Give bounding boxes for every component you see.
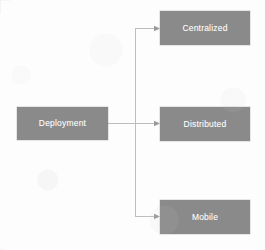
diagram-canvas: Deployment Centralized Distributed Mobil… (0, 0, 265, 250)
node-mobile-label: Mobile (192, 213, 218, 222)
node-centralized-label: Centralized (182, 24, 227, 33)
node-deployment[interactable]: Deployment (17, 107, 108, 140)
node-centralized[interactable]: Centralized (160, 11, 250, 45)
node-mobile[interactable]: Mobile (160, 200, 250, 234)
node-distributed-label: Distributed (184, 120, 227, 129)
node-deployment-label: Deployment (39, 119, 86, 128)
node-distributed[interactable]: Distributed (160, 107, 250, 141)
